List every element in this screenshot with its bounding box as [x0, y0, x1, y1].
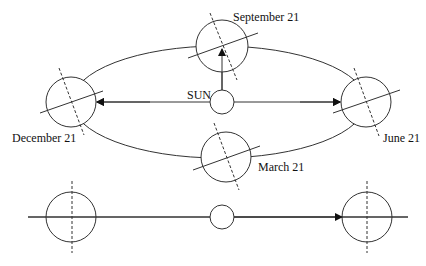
- sun-circle: [210, 90, 234, 114]
- earth-september: [188, 13, 258, 90]
- earth-june: [300, 68, 400, 136]
- label-december: December 21: [12, 131, 76, 145]
- label-march: March 21: [258, 160, 304, 174]
- earth-march: [193, 123, 260, 190]
- earth-december: [40, 68, 150, 135]
- label-sun: SUN: [187, 88, 211, 102]
- seasons-diagram: September 21 SUN December 21 June 21 Mar…: [0, 0, 426, 266]
- side-view: [28, 181, 408, 253]
- label-june: June 21: [383, 131, 420, 145]
- side-sun: [210, 205, 234, 229]
- label-september: September 21: [233, 10, 299, 24]
